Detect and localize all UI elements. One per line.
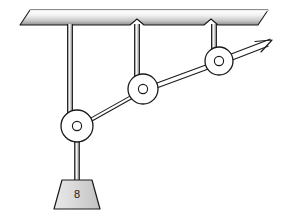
pulley-diagram-canvas: 8 [0,0,281,218]
pulley-middle-hub [138,84,147,93]
pulley-middle [128,74,158,104]
ceiling-plate [20,10,268,25]
pulley-lower-left [61,110,93,142]
hanging-weight-block: 8 [54,180,100,209]
pulley-upper-right [205,47,233,75]
pulley-upper-right-hub [214,56,223,65]
weight-value-label: 8 [74,188,80,200]
pulley-diagram-figure: 8 [0,0,281,218]
rope-group [75,39,272,181]
ceiling-plate-body [20,10,268,25]
pulley-group [61,47,233,142]
pulley-lower-left-hub [72,121,81,130]
